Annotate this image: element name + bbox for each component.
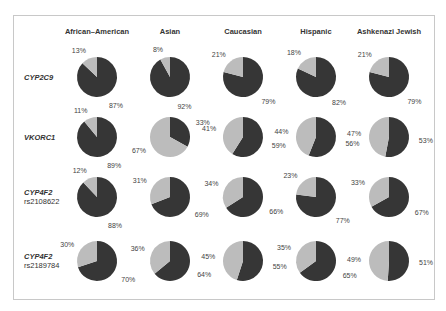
percent-label: 41% [202,125,216,132]
pie-chart: 34%66% [204,177,283,217]
pie-chart: 35%65% [277,241,357,281]
percent-label: 44% [274,128,288,135]
pie-chart: 47%53% [347,117,433,157]
percent-label: 21% [212,51,226,58]
pie-chart: 45%55% [201,241,286,281]
pie-chart: 21%79% [358,51,422,105]
percent-label: 56% [345,140,359,147]
percent-label: 66% [269,208,283,215]
percent-label: 51% [419,259,433,266]
percent-label: 23% [283,172,297,179]
percent-label: 13% [72,47,86,54]
percent-label: 88% [108,222,122,229]
pie-chart: 67%33% [132,117,210,157]
percent-label: 30% [60,241,74,248]
percent-label: 79% [261,98,275,105]
percent-label: 49% [347,256,361,263]
percent-label: 18% [287,49,301,56]
percent-label: 69% [195,211,209,218]
pie-chart: 49%51% [347,241,433,281]
percent-label: 47% [347,130,361,137]
percent-label: 77% [336,217,350,224]
pie-chart: 23%77% [283,172,349,224]
percent-label: 53% [419,137,433,144]
percent-label: 36% [131,245,145,252]
percent-label: 70% [121,276,135,283]
percent-label: 87% [109,102,123,109]
pie-chart: 21%79% [212,51,276,105]
pie-chart: 30%70% [60,241,135,283]
pie-chart: 11%89% [74,107,121,170]
percent-label: 34% [204,180,218,187]
pie-chart: 36%64% [131,241,212,281]
pie-chart: 31%69% [133,177,209,218]
percent-label: 92% [177,103,191,110]
percent-label: 65% [343,272,357,279]
pie-chart: 33%67% [351,177,429,217]
pie-chart: 13%87% [72,47,123,108]
pie-chart: 8%92% [150,46,191,110]
percent-label: 59% [272,142,286,149]
percent-label: 33% [351,179,365,186]
percent-label: 12% [73,167,87,174]
pie-chart: 12%88% [73,167,122,229]
percent-label: 55% [273,263,287,270]
percent-label: 89% [107,162,121,169]
percent-label: 31% [133,177,147,184]
pie-chart: 18%82% [287,49,346,106]
percent-label: 64% [197,271,211,278]
pie-grid: 13%87%8%92%21%79%18%82%21%79%11%89%67%33… [0,0,446,311]
percent-label: 8% [153,46,163,53]
percent-label: 11% [74,107,88,114]
percent-label: 35% [277,244,291,251]
percent-label: 45% [201,253,215,260]
pie-chart: 41%59% [202,117,286,157]
percent-label: 21% [358,51,372,58]
percent-label: 82% [332,99,346,106]
percent-label: 67% [415,209,429,216]
percent-label: 79% [407,98,421,105]
percent-label: 67% [132,147,146,154]
